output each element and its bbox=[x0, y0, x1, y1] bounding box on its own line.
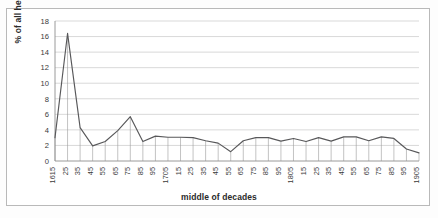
x-tick-label: 85 bbox=[261, 167, 270, 175]
droplines-group bbox=[55, 33, 419, 161]
y-tick-label: 6 bbox=[45, 110, 49, 119]
x-tick-labels: 1615253545556575859517051525354555657585… bbox=[48, 167, 421, 183]
chart-frame: 024681012141618 161525354555657585951705… bbox=[6, 8, 430, 206]
series-line-headwords bbox=[55, 33, 419, 152]
y-tick-label: 14 bbox=[41, 48, 49, 57]
y-tick-labels: 024681012141618 bbox=[41, 17, 49, 166]
x-tick-label: 45 bbox=[337, 167, 346, 175]
x-tick-label: 15 bbox=[299, 167, 308, 175]
x-tick-label: 55 bbox=[98, 167, 107, 175]
x-tick-label: 1615 bbox=[48, 167, 57, 183]
y-tick-label: 18 bbox=[41, 17, 49, 26]
x-tick-label: 25 bbox=[186, 167, 195, 175]
y-tick-label: 16 bbox=[41, 32, 49, 41]
x-tick-label: 55 bbox=[224, 167, 233, 175]
x-tick-label: 35 bbox=[324, 167, 333, 175]
x-tick-label: 75 bbox=[249, 167, 258, 175]
x-tick-label: 85 bbox=[136, 167, 145, 175]
x-tick-label: 95 bbox=[399, 167, 408, 175]
x-tick-label: 95 bbox=[274, 167, 283, 175]
x-tick-label: 75 bbox=[374, 167, 383, 175]
x-tick-label: 1805 bbox=[286, 167, 295, 183]
x-tick-label: 35 bbox=[199, 167, 208, 175]
x-tick-label: 15 bbox=[174, 167, 183, 175]
x-tick-label: 65 bbox=[236, 167, 245, 175]
x-tick-label: 65 bbox=[362, 167, 371, 175]
x-tick-label: 1705 bbox=[161, 167, 170, 183]
y-tick-label: 12 bbox=[41, 63, 49, 72]
x-tick-label: 45 bbox=[211, 167, 220, 175]
x-tick-label: 35 bbox=[73, 167, 82, 175]
y-tick-label: 10 bbox=[41, 79, 49, 88]
y-tick-label: 4 bbox=[45, 126, 49, 135]
y-tick-label: 0 bbox=[45, 157, 49, 166]
x-tick-label: 65 bbox=[111, 167, 120, 175]
x-tick-label: 75 bbox=[123, 167, 132, 175]
y-axis-title: % of all headwords bbox=[13, 0, 23, 59]
y-tick-label: 8 bbox=[45, 95, 49, 104]
x-tick-label: 85 bbox=[387, 167, 396, 175]
x-tick-label: 25 bbox=[61, 167, 70, 175]
x-tick-label: 55 bbox=[349, 167, 358, 175]
chart-plot-area: 024681012141618 161525354555657585951705… bbox=[7, 9, 429, 205]
y-tick-label: 2 bbox=[45, 141, 49, 150]
x-tick-label: 95 bbox=[148, 167, 157, 175]
gridlines-group bbox=[55, 21, 419, 145]
x-tick-label: 45 bbox=[86, 167, 95, 175]
x-axis-title: middle of decades bbox=[0, 192, 438, 202]
x-tick-label: 1905 bbox=[412, 167, 421, 183]
x-tick-label: 25 bbox=[312, 167, 321, 175]
chart-figure: 024681012141618 161525354555657585951705… bbox=[0, 0, 438, 218]
